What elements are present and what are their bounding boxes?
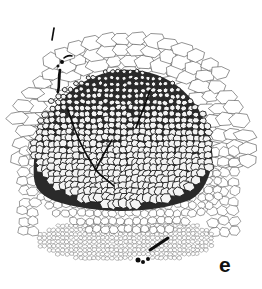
cell — [176, 88, 181, 92]
cell — [134, 76, 139, 80]
cell — [141, 210, 149, 218]
cell — [104, 88, 110, 93]
cell — [38, 245, 42, 249]
cell — [195, 245, 199, 249]
cell — [157, 100, 162, 105]
cell — [200, 232, 204, 236]
cell — [60, 252, 64, 256]
cell — [103, 83, 108, 87]
cell — [115, 82, 120, 87]
cell — [73, 82, 78, 86]
cell — [110, 240, 115, 243]
cell — [149, 122, 156, 129]
cell — [134, 111, 140, 116]
cell — [73, 94, 78, 98]
cell — [85, 210, 94, 217]
cell — [120, 117, 127, 123]
cell — [127, 236, 132, 240]
cell — [172, 256, 176, 260]
cell — [186, 228, 191, 232]
cell — [132, 240, 137, 244]
cell — [92, 236, 97, 239]
cell — [74, 248, 78, 252]
cell — [47, 248, 51, 252]
cell — [64, 228, 69, 232]
cell — [82, 245, 87, 248]
cell — [163, 110, 169, 116]
cell — [105, 257, 110, 261]
cell — [60, 228, 65, 232]
cell — [56, 232, 61, 236]
cell — [136, 248, 141, 252]
cell — [62, 87, 67, 92]
cell — [200, 248, 204, 252]
cell — [230, 167, 240, 176]
cell — [121, 94, 126, 99]
cell — [142, 244, 146, 248]
cell — [128, 252, 132, 256]
cell — [200, 240, 204, 244]
cell — [132, 252, 136, 256]
cell — [205, 236, 210, 240]
cell — [101, 244, 105, 248]
cell — [54, 123, 61, 129]
cell — [217, 206, 228, 216]
cell — [122, 88, 127, 93]
cell — [97, 122, 103, 129]
cell — [178, 225, 183, 228]
cell — [91, 99, 97, 104]
cell — [73, 233, 78, 237]
cell — [157, 88, 163, 92]
cell — [67, 93, 72, 99]
cell — [173, 236, 177, 240]
cell — [141, 252, 146, 256]
cell — [74, 244, 79, 248]
cell — [80, 92, 85, 97]
cell — [141, 248, 146, 252]
cell — [37, 118, 44, 123]
cell — [146, 244, 150, 248]
cell — [87, 236, 91, 240]
cell — [69, 236, 74, 240]
cell — [55, 236, 60, 240]
cell — [85, 82, 90, 86]
cell — [190, 231, 195, 235]
cell — [148, 210, 157, 218]
cell — [182, 236, 186, 240]
cell — [69, 208, 78, 217]
cell — [162, 100, 168, 106]
cell — [186, 122, 193, 128]
cell — [195, 248, 200, 251]
cell — [137, 236, 141, 240]
cell — [96, 256, 101, 260]
cell — [78, 249, 83, 253]
cell — [103, 77, 107, 81]
cell — [163, 88, 168, 93]
cell — [128, 232, 133, 236]
cell — [192, 105, 198, 110]
cell — [105, 236, 109, 240]
cell — [156, 105, 162, 111]
cell — [115, 94, 120, 99]
stained-granule — [60, 60, 64, 64]
cell — [123, 248, 128, 252]
cell — [90, 118, 96, 125]
cell — [65, 223, 69, 227]
cell — [204, 240, 209, 244]
cell — [187, 110, 193, 116]
cell — [94, 209, 101, 217]
cell — [195, 236, 199, 240]
cell — [164, 256, 168, 260]
cell — [87, 252, 92, 256]
cell — [96, 248, 101, 252]
cell — [173, 248, 178, 252]
cell — [137, 241, 142, 245]
cell — [229, 226, 240, 235]
cell — [226, 205, 239, 216]
cell — [173, 232, 178, 236]
cell — [42, 232, 47, 236]
cell — [150, 88, 156, 93]
cell — [87, 240, 92, 244]
cell — [79, 256, 83, 260]
cell — [173, 252, 178, 256]
